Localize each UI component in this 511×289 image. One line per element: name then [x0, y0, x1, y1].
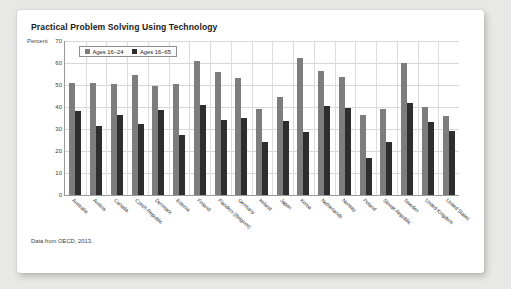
x-axis-tick-label: Poland: [362, 197, 378, 212]
x-axis-tick-label: Ireland: [258, 197, 273, 212]
bar-group: United States: [438, 41, 459, 195]
chart-legend: Ages 16–24 Ages 16–65: [79, 46, 177, 57]
bar: [241, 118, 247, 195]
x-axis-tick-label: Estonia: [175, 197, 191, 213]
bar: [449, 131, 455, 195]
bar-group: Denmark: [148, 41, 169, 195]
bar-group: Austria: [86, 41, 107, 195]
source-note: Data from OECD, 2013.: [31, 238, 93, 244]
y-axis-tick-label: 10: [55, 170, 62, 176]
y-axis-title: Percent: [27, 38, 48, 44]
y-axis-tick-label: 60: [55, 60, 62, 66]
bar: [221, 120, 227, 195]
bar-group: Ireland: [252, 41, 273, 195]
bar: [262, 142, 268, 195]
bar-group: Sweden: [397, 41, 418, 195]
x-axis-tick-label: Germany: [237, 197, 256, 215]
x-axis-tick-label: Sweden: [403, 197, 421, 214]
bar: [179, 135, 185, 196]
x-axis-tick-label: Austria: [92, 197, 107, 212]
bar: [158, 110, 164, 195]
x-axis-tick-label: Australia: [71, 197, 89, 214]
bar-group: United Kingdom: [417, 41, 438, 195]
bar-group: Netherlands: [314, 41, 335, 195]
bar-group: Australia: [65, 41, 86, 195]
bar: [366, 158, 372, 195]
bar: [283, 121, 289, 195]
bar: [407, 103, 413, 195]
y-axis-tick-label: 0: [59, 192, 62, 198]
x-axis-tick-label: Denmark: [154, 197, 173, 215]
y-axis-tick-label: 20: [55, 148, 62, 154]
y-axis-tick-label: 30: [55, 126, 62, 132]
bar-group: Slovak Republic: [376, 41, 397, 195]
x-axis-tick-label: Finland: [196, 197, 212, 212]
bar-group: Flanders (Belgium): [210, 41, 231, 195]
page-title: Practical Problem Solving Using Technolo…: [31, 22, 217, 32]
bar: [324, 106, 330, 195]
bar: [96, 126, 102, 195]
x-axis-tick-label: Japan: [279, 197, 293, 211]
bar-group: Norway: [335, 41, 356, 195]
legend-item-ages-16-65: Ages 16–65: [132, 49, 170, 55]
x-axis-tick-label: Norway: [341, 197, 358, 213]
legend-swatch-icon: [85, 49, 90, 54]
bar-groups: AustraliaAustriaCanadaCzech RepublicDenm…: [65, 41, 459, 195]
bar: [75, 111, 81, 195]
bar-group: Poland: [355, 41, 376, 195]
chart-plot-area: 010203040506070 AustraliaAustriaCanadaCz…: [64, 41, 459, 196]
legend-label: Ages 16–24: [93, 49, 124, 55]
bar-group: Finland: [189, 41, 210, 195]
bar-group: Germany: [231, 41, 252, 195]
chart-card: Practical Problem Solving Using Technolo…: [17, 10, 484, 273]
legend-label: Ages 16–65: [140, 49, 171, 55]
bar: [117, 115, 123, 195]
y-axis-tick-label: 70: [55, 38, 62, 44]
bar-group: Czech Republic: [127, 41, 148, 195]
bar: [345, 108, 351, 195]
y-axis-tick-label: 40: [55, 104, 62, 110]
x-axis-tick-label: Korea: [299, 197, 313, 210]
bar: [428, 122, 434, 195]
legend-swatch-icon: [132, 49, 137, 54]
bar: [386, 142, 392, 195]
bar-group: Japan: [272, 41, 293, 195]
bar: [303, 132, 309, 195]
bar-group: Canada: [106, 41, 127, 195]
legend-item-ages-16-24: Ages 16–24: [85, 49, 123, 55]
bar-group: Estonia: [169, 41, 190, 195]
bar-group: Korea: [293, 41, 314, 195]
y-axis-tick-label: 50: [55, 82, 62, 88]
bar: [138, 124, 144, 195]
x-axis-tick-label: Canada: [113, 197, 130, 213]
bar: [200, 105, 206, 195]
